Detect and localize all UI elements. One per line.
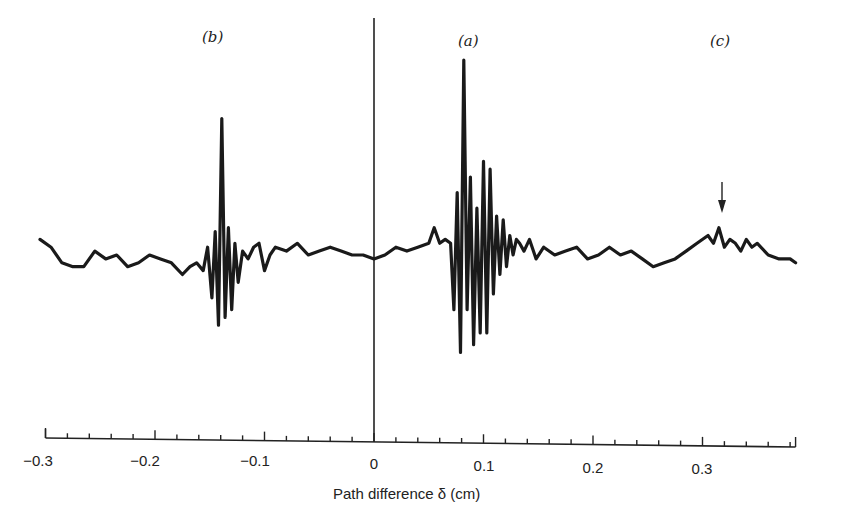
tick-label: 0.1: [474, 457, 495, 474]
tick-label: 0.3: [692, 460, 713, 477]
tick-label: −0.2: [130, 452, 160, 469]
tick-label: 0.2: [583, 459, 604, 476]
tick-label: 0: [370, 455, 378, 472]
peak-label-c: (c): [710, 32, 730, 50]
peak-label-b: (b): [202, 28, 223, 46]
peak-label-a: (a): [458, 32, 479, 50]
down-arrow-icon: [718, 182, 726, 213]
x-axis-label: Path difference δ (cm): [333, 485, 480, 502]
tick-label: −0.3: [23, 452, 53, 469]
x-axis: [46, 428, 796, 447]
interferogram-chart: [0, 0, 847, 518]
tick-label: −0.1: [240, 452, 270, 469]
interferogram-trace: [40, 60, 796, 353]
